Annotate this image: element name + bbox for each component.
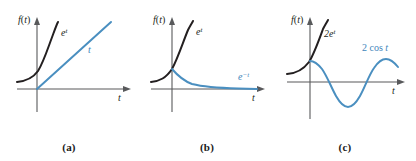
y-axis-label-b: f(t) — [153, 14, 165, 26]
panel-b-plot: f(t) t et e−t — [138, 4, 276, 124]
x-axis-arrowhead — [123, 86, 131, 92]
panel-a: f(t) t et t (a) — [0, 0, 138, 161]
panel-caption-c: (c) — [276, 141, 414, 153]
panel-caption-a: (a) — [0, 141, 138, 153]
two-cosine-curve-c — [310, 59, 398, 107]
curve-label-linear-a: t — [88, 44, 91, 55]
y-axis-arrowhead — [34, 17, 40, 25]
panel-c: f(t) t 2et 2 cos t (c) — [276, 0, 414, 161]
panel-caption-b: (b) — [138, 141, 276, 153]
y-axis-label-a: f(t) — [18, 14, 30, 26]
curve-label-2cos-c: 2 cos t — [362, 42, 388, 53]
x-axis-label-b: t — [252, 92, 255, 103]
panel-c-svg: f(t) t 2et 2 cos t — [276, 4, 416, 124]
x-axis-label-c: t — [392, 85, 395, 96]
panel-b-svg: f(t) t et e−t — [138, 4, 276, 124]
curve-label-exp-a: et — [61, 27, 68, 38]
y-axis-arrowhead — [307, 17, 313, 25]
curve-label-2exp-c: 2et — [324, 28, 336, 39]
curve-label-decay-b: e−t — [238, 71, 250, 82]
panel-b: f(t) t et e−t (b) — [138, 0, 276, 161]
curve-label-exp-b: et — [196, 26, 203, 37]
two-exponential-curve-c — [287, 20, 328, 74]
y-axis-arrowhead — [169, 17, 175, 25]
x-axis-arrowhead — [257, 86, 265, 92]
x-axis-label-a: t — [118, 92, 121, 103]
linear-curve-a — [37, 22, 111, 89]
panel-a-plot: f(t) t et t — [0, 4, 138, 124]
figure-container: f(t) t et t (a) — [0, 0, 416, 161]
x-axis-arrowhead — [397, 79, 405, 85]
panel-a-svg: f(t) t et t — [0, 4, 138, 124]
y-axis-label-c: f(t) — [291, 14, 303, 26]
panel-c-plot: f(t) t 2et 2 cos t — [276, 4, 414, 124]
